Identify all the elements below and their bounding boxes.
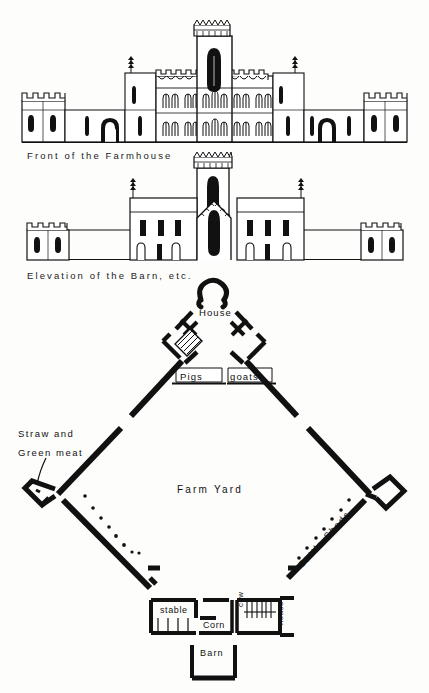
plan-label-house: House [199, 307, 232, 318]
dotted-path-right [297, 498, 351, 560]
plan-label-stable: stable [160, 605, 188, 615]
front-elevation-figure [22, 20, 407, 142]
main-right-block [229, 70, 273, 142]
yard-walls [58, 361, 370, 588]
wall-stub-left [150, 578, 156, 584]
plan-label-house-small: house [276, 601, 285, 625]
barn-elevation-figure [27, 152, 403, 260]
plan-label-cow: cow [236, 592, 245, 607]
straw-leader-line [37, 458, 46, 484]
central-tower [194, 20, 232, 142]
barn-right-turret [361, 223, 403, 260]
straw-pavilion [25, 481, 55, 505]
barn-right-block [237, 178, 304, 260]
plan-label-pigs: Pigs [180, 371, 203, 382]
plan-label-straw-line1: Straw and [18, 428, 74, 439]
barn-right-wall [304, 230, 361, 260]
drawing-sheet: Front of the Farmhouse Elevation of the … [0, 0, 429, 693]
right-corner-turret [364, 93, 407, 142]
right-intermediate-tower [273, 56, 304, 142]
architectural-drawing-svg [0, 0, 429, 693]
horseshoe-feature [199, 280, 227, 307]
barn-left-block [130, 178, 197, 260]
plan-label-corn: Corn [203, 620, 225, 630]
main-left-block [156, 70, 200, 142]
house-hatching [175, 329, 202, 356]
barn-left-turret [27, 223, 69, 260]
caption-barn-elevation: Elevation of the Barn, etc. [27, 270, 193, 281]
plan-label-goats: goats [230, 371, 259, 382]
left-low-range [65, 110, 125, 142]
plan-label-straw-line2: Green meat [18, 447, 83, 458]
plan-label-farm-yard: Farm Yard [177, 484, 243, 495]
farm-yard-plan-figure [25, 280, 404, 678]
left-corner-turret [22, 93, 65, 142]
left-intermediate-tower [125, 56, 156, 142]
caption-front-elevation: Front of the Farmhouse [27, 150, 172, 161]
house-complex [163, 312, 265, 363]
right-pavilion [366, 477, 404, 508]
right-low-range [304, 110, 364, 142]
plan-label-barn: Barn [200, 648, 224, 658]
